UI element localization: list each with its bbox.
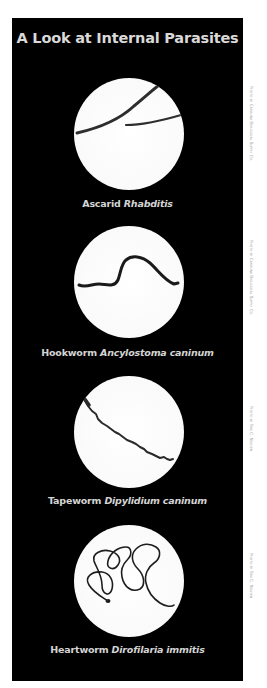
common-name: Ascarid xyxy=(82,198,120,209)
scientific-name: Ancylostoma caninum xyxy=(100,347,214,358)
scientific-name: Dirofilaria immitis xyxy=(112,644,205,655)
photo-credit: Photo by Carolina Biological Supply Co. xyxy=(249,240,254,315)
photo-credit: Photo by Carolina Biological Supply Co. xyxy=(249,86,254,161)
ascarid-worm-icon xyxy=(74,78,184,190)
hookworm-worm-icon xyxy=(74,226,184,338)
scientific-name: Rhabditis xyxy=(124,198,173,209)
scientific-name: Dipylidium caninum xyxy=(104,495,207,506)
tapeworm-worm-icon xyxy=(74,376,184,488)
photo-credit: Photo by Tan C. Nguyen xyxy=(249,553,254,598)
caption-ascarid: Ascarid Rhabditis xyxy=(12,198,243,209)
common-name: Tapeworm xyxy=(48,495,101,506)
page-title: A Look at Internal Parasites xyxy=(12,30,243,46)
heartworm-worm-icon xyxy=(74,525,184,637)
hookworm-photo xyxy=(74,226,184,338)
tapeworm-photo xyxy=(74,376,184,488)
caption-hookworm: Hookworm Ancylostoma caninum xyxy=(12,347,243,358)
heartworm-photo xyxy=(74,525,184,637)
caption-tapeworm: Tapeworm Dipylidium caninum xyxy=(12,495,243,506)
photo-credit: Photo by Tan C. Nguyen xyxy=(249,406,254,451)
common-name: Hookworm xyxy=(41,347,97,358)
common-name: Heartworm xyxy=(50,644,108,655)
ascarid-photo xyxy=(74,78,184,190)
caption-heartworm: Heartworm Dirofilaria immitis xyxy=(12,644,243,655)
